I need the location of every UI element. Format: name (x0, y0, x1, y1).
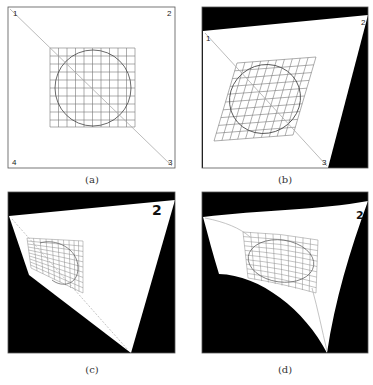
panel-b-corner-label-3: 3 (322, 158, 327, 167)
panel-a-corner-label-4: 4 (12, 158, 17, 167)
panel-b-corner-label-2: 2 (361, 18, 366, 27)
panel-c-corner-label-2: 2 (152, 202, 162, 218)
panel-d-corner-label-2: 2 (356, 209, 364, 222)
panel-d: 2 (202, 192, 368, 353)
figure-canvas: 1 2 3 4 1 2 3 2 (0, 0, 373, 385)
caption-d: (d) (255, 364, 315, 375)
panel-b-corner-label-1: 1 (206, 34, 211, 43)
caption-a: (a) (62, 174, 122, 185)
caption-b: (b) (255, 174, 315, 185)
caption-c: (c) (62, 364, 122, 375)
panel-a-corner-label-3: 3 (168, 158, 173, 167)
panel-b: 1 2 3 (202, 7, 368, 168)
panel-a: 1 2 3 4 (8, 7, 175, 168)
panel-a-corner-label-1: 1 (13, 9, 18, 18)
panel-a-corner-label-2: 2 (167, 9, 172, 18)
panel-c: 2 (8, 192, 175, 353)
